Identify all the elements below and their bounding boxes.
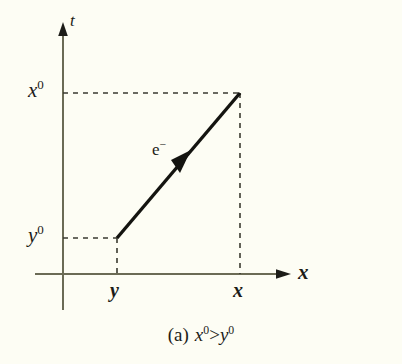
electron-label-charge-superscript: − [160,137,167,151]
tick-label-x0-superscript: 0 [37,77,44,92]
vertical-axis-label: t [70,12,75,29]
diagram-canvas [0,0,402,364]
caption-relation-symbol: > [209,324,220,345]
tick-label-x: x [233,280,243,300]
tick-label-x0-base: x [28,78,37,102]
tick-label-x0: x0 [28,80,44,101]
tick-label-y0: y0 [28,225,44,246]
tick-label-y: y [110,280,119,300]
tick-label-y0-superscript: 0 [37,222,44,237]
electron-label-base: e [152,140,160,159]
caption-rhs-superscript: 0 [228,324,234,337]
caption-expression: x0>y0 [195,324,234,345]
figure-caption: (a)x0>y0 [0,324,402,346]
spacetime-diagram-figure: t x x0 y0 y x e− (a)x0>y0 [0,0,402,364]
vertical-axis-arrowhead [58,22,68,36]
caption-tag: (a) [168,324,189,345]
tick-label-y0-base: y [28,223,37,247]
horizontal-axis-label: x [298,262,309,283]
electron-label: e− [152,141,166,158]
horizontal-axis-arrowhead [276,269,291,279]
